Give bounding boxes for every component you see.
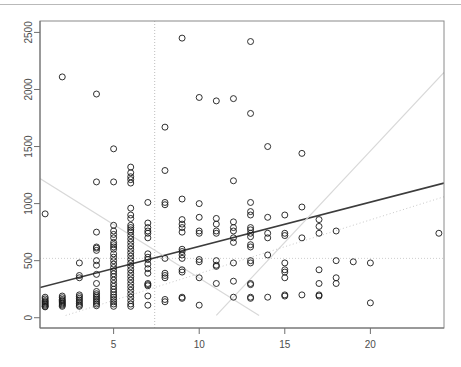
x-axis-tick-label: 10 xyxy=(194,339,206,350)
y-axis-tick-label: 2000 xyxy=(24,78,35,101)
plot-background xyxy=(40,21,444,328)
y-axis-tick-label: 0 xyxy=(24,315,35,321)
x-axis-tick-label: 15 xyxy=(279,339,291,350)
y-axis-tick-label: 1000 xyxy=(24,192,35,215)
scatter-plot-figure: 5101520 05001000150020002500 xyxy=(0,0,461,367)
y-axis-tick-label: 2500 xyxy=(24,21,35,44)
chart-canvas: 5101520 05001000150020002500 xyxy=(0,0,461,367)
y-axis: 05001000150020002500 xyxy=(24,21,41,328)
x-axis: 5101520 xyxy=(40,328,444,350)
x-axis-tick-label: 20 xyxy=(365,339,377,350)
y-axis-tick-label: 1500 xyxy=(24,135,35,158)
x-axis-tick-label: 5 xyxy=(111,339,117,350)
y-axis-tick-label: 500 xyxy=(24,252,35,269)
plot-panel xyxy=(40,21,444,328)
